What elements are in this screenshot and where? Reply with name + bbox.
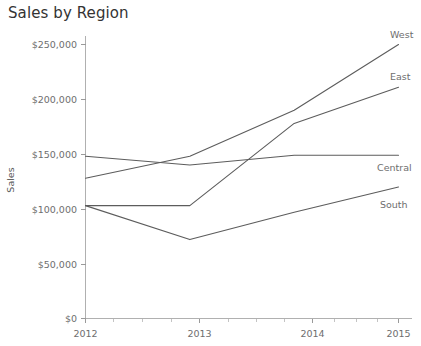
series-line-central[interactable]	[86, 155, 399, 165]
y-tick-label-0: $0	[65, 313, 77, 324]
y-tick-label-50000: $50,000	[38, 259, 77, 270]
y-tick-label-150000: $150,000	[32, 149, 77, 160]
x-tick-label-2012: 2012	[73, 328, 97, 339]
chart-viz-container: Sales by Region	[0, 0, 421, 346]
y-axis-ticks	[81, 45, 86, 319]
line-chart-svg: $250,000 $200,000 $150,000 $100,000 $50,…	[0, 0, 421, 346]
y-tick-label-200000: $200,000	[32, 94, 77, 105]
x-axis-ticks	[86, 319, 399, 324]
x-tick-label-2013: 2013	[187, 328, 211, 339]
series-label-east: East	[390, 71, 411, 82]
series-label-central: Central	[377, 162, 412, 173]
series-line-south[interactable]	[86, 187, 399, 240]
y-tick-label-250000: $250,000	[32, 39, 77, 50]
series-line-east[interactable]	[86, 87, 399, 205]
x-tick-label-2015: 2015	[386, 328, 410, 339]
series-label-south: South	[380, 199, 408, 210]
series-label-west: West	[390, 29, 414, 40]
series-line-west[interactable]	[86, 45, 399, 179]
y-axis-title: Sales	[5, 167, 16, 192]
x-tick-label-2014: 2014	[300, 328, 324, 339]
y-tick-label-100000: $100,000	[32, 204, 77, 215]
